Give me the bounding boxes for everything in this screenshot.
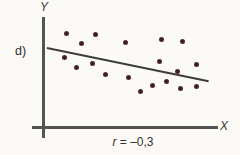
plot-area [0,0,240,155]
data-point [178,86,183,91]
correlation-value: = –0,3 [116,135,153,149]
data-point [150,83,155,88]
data-point [74,65,79,70]
data-point [159,37,164,42]
data-point [64,31,69,36]
data-point [62,55,67,60]
data-point [164,79,169,84]
data-point [138,89,143,94]
data-point [93,32,98,37]
data-point [90,61,95,66]
data-point [157,59,162,64]
data-point [126,75,131,80]
data-point [180,39,185,44]
data-point [194,84,199,89]
data-point [123,40,128,45]
correlation-caption: r = –0,3 [0,135,240,149]
data-point [79,41,84,46]
data-point [103,72,108,77]
data-point [194,62,199,67]
scatter-plot-figure: d) Y X r = –0,3 [0,0,240,155]
